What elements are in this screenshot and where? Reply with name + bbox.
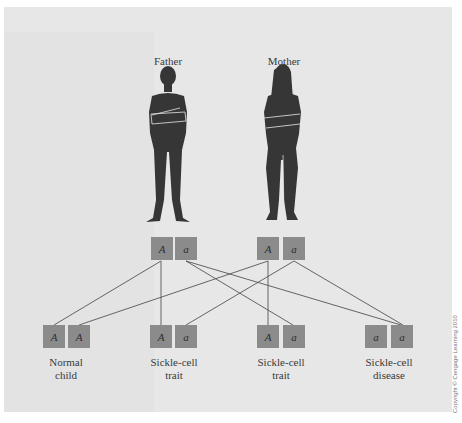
father-allele-2: a [175,237,197,260]
child-3-label: Sickle-cell trait [241,356,321,382]
child-4-label-line2: disease [349,369,429,382]
child-3-allele-2: a [283,325,305,348]
child-1-label: Normal child [26,356,106,382]
child-2-label: Sickle-cell trait [134,356,214,382]
child-2-allele-2: a [175,325,197,348]
child-1-label-line1: Normal [26,356,106,369]
father-allele-1: A [151,237,173,260]
child-4-allele-1: a [365,325,387,348]
father-label: Father [148,55,188,68]
mother-allele-2: a [283,237,305,260]
child-3-allele-1: A [257,325,279,348]
child-1-allele-2: A [68,325,90,348]
child-2-label-line1: Sickle-cell [134,356,214,369]
child-1-label-line2: child [26,369,106,382]
child-2-allele-1: A [150,325,172,348]
child-3-label-line1: Sickle-cell [241,356,321,369]
child-4-label-line1: Sickle-cell [349,356,429,369]
child-2-label-line2: trait [134,369,214,382]
father-silhouette-icon [146,66,190,222]
child-1-allele-1: A [43,325,65,348]
copyright-notice: Copyright © Cengage Learning 2010 [452,315,458,413]
inheritance-lines [54,261,403,325]
child-4-allele-2: a [391,325,413,348]
mother-silhouette-icon [264,64,301,220]
mother-allele-1: A [257,237,279,260]
child-4-label: Sickle-cell disease [349,356,429,382]
mother-label: Mother [263,55,305,68]
child-3-label-line2: trait [241,369,321,382]
